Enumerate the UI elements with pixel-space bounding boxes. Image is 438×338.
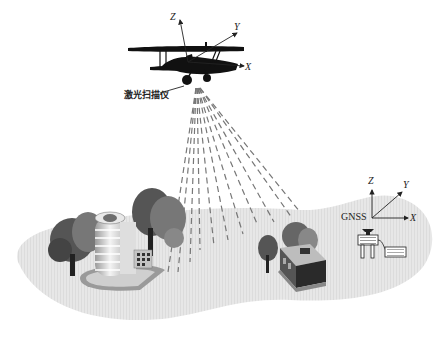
lidar-diagram: Z Y X 激光扫描仪 Z Y X GNSS [0, 0, 438, 338]
aircraft-z-axis-label: Z [170, 12, 176, 22]
laser-scanner-label: 激光扫描仪 [124, 91, 169, 100]
gnss-x-axis-label: X [410, 213, 416, 223]
aircraft-y-axis-label: Y [234, 22, 240, 32]
gnss-label: GNSS [341, 212, 367, 222]
airplane-icon [128, 42, 244, 85]
aircraft-x-axis-label: X [245, 62, 251, 72]
gnss-z-axis-label: Z [368, 176, 374, 186]
aircraft-axes [160, 20, 244, 93]
gnss-y-axis-label: Y [403, 180, 409, 190]
